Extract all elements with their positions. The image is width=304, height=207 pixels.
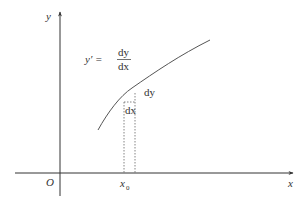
formula-lhs: y′ =: [84, 53, 102, 65]
x0-subscript: 0: [126, 184, 130, 192]
x-axis-label: x: [287, 177, 293, 189]
formula-denominator: dx: [118, 60, 130, 72]
y-axis-label: y: [45, 10, 51, 22]
function-curve: [98, 40, 210, 130]
dy-label: dy: [144, 86, 156, 98]
dx-label: dx: [125, 104, 137, 116]
origin-label: O: [46, 176, 54, 188]
derivative-diagram: y O x x 0 y′ = dy dx dy dx: [0, 0, 304, 207]
x0-label: x: [119, 177, 125, 189]
formula-numerator: dy: [118, 46, 130, 58]
